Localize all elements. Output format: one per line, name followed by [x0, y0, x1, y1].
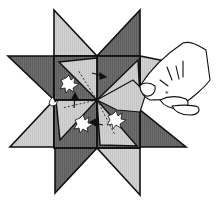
top-right-point — [97, 10, 140, 56]
right-lower-point — [140, 110, 186, 147]
paper-star-folding-illustration: * — [0, 0, 216, 200]
left-upper-point — [8, 56, 54, 100]
hand-finger-2 — [172, 105, 199, 115]
top-left-point — [54, 10, 97, 56]
bottom-right-point — [97, 148, 140, 195]
star-mark: * — [165, 90, 169, 98]
left-lower-point — [10, 100, 54, 147]
bottom-left-point — [55, 148, 97, 193]
